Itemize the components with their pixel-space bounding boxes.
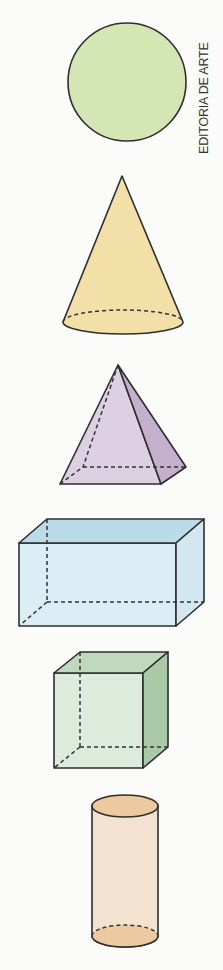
image-credit: EDITORIA DE ARTE xyxy=(197,42,211,154)
cube-side-face xyxy=(143,652,168,768)
pyramid-shape xyxy=(60,365,186,484)
cone-shape xyxy=(63,176,183,334)
cone-body xyxy=(63,176,183,334)
cylinder-shape xyxy=(92,795,158,947)
cube-front-face xyxy=(54,673,143,768)
prism-shape xyxy=(19,519,204,626)
cube-shape xyxy=(54,652,168,768)
geometric-solids-figure xyxy=(0,0,223,970)
sphere-body xyxy=(68,23,186,141)
sphere-shape xyxy=(68,23,186,141)
prism-front-face xyxy=(19,543,176,626)
cylinder-top-cap xyxy=(92,795,158,817)
